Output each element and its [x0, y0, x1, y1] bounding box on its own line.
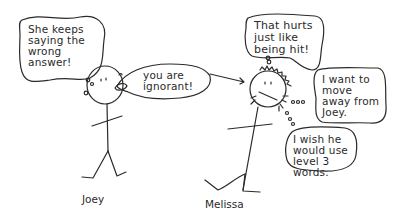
melissa-mouth	[259, 92, 277, 100]
melissa-thought-text-1: That hurts just like being hit!	[254, 20, 313, 56]
joey-body	[107, 104, 108, 151]
joey-thought-text: She keeps saying the wrong answer!	[28, 24, 85, 68]
joey-speech-text: you are ignorant!	[143, 70, 193, 92]
melissa-head	[250, 71, 286, 107]
melissa-body	[243, 107, 258, 190]
melissa-thought-text-3: I wish he would use level 3 words.	[293, 134, 348, 178]
melissa-name-label: Melissa	[205, 198, 244, 210]
joey-leg-right	[108, 151, 126, 176]
joey-leg-left	[82, 151, 108, 178]
joey-name-label: Joey	[82, 193, 104, 205]
melissa-arms	[228, 124, 272, 129]
comic-illustration: She keeps saying the wrong answer! you a…	[0, 0, 406, 222]
melissa-leg-left	[205, 174, 245, 190]
melissa-thought-text-2: I want to move away from Joey.	[322, 74, 379, 118]
